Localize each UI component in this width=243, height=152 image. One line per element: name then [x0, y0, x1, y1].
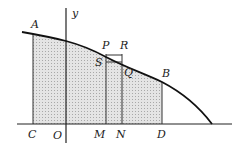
shaded-area — [33, 34, 162, 124]
label-O: O — [53, 129, 62, 142]
label-S: S — [95, 56, 103, 69]
label-R: R — [119, 39, 128, 52]
label-Q: Q — [124, 66, 133, 79]
y-axis-label: y — [71, 7, 79, 20]
label-B: B — [161, 67, 170, 80]
label-M: M — [93, 128, 106, 141]
label-A: A — [30, 18, 39, 31]
label-P: P — [101, 39, 110, 52]
label-N: N — [115, 128, 126, 141]
area-under-curve-diagram: y A P R S Q B C O M N D — [0, 0, 243, 152]
label-D: D — [156, 128, 166, 141]
label-C: C — [28, 128, 37, 141]
